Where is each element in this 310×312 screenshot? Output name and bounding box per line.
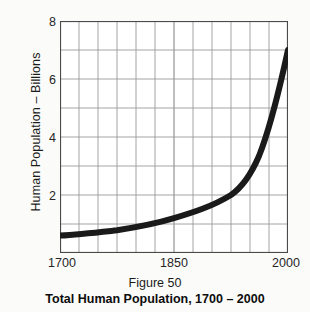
caption-title: Total Human Population, 1700 – 2000 [0, 291, 310, 307]
y-tick-label-8: 8 [34, 16, 56, 29]
x-tick-label-group: 1700 1850 2000 [0, 256, 310, 274]
population-line-chart [60, 21, 288, 253]
caption-figure-number: Figure 50 [0, 276, 310, 291]
figure-caption: Figure 50 Total Human Population, 1700 –… [0, 276, 310, 307]
plot-area [60, 21, 288, 253]
x-tick-label-2000: 2000 [272, 256, 300, 270]
figure-container: Human Population – Billions 8 6 4 2 [0, 0, 310, 312]
y-tick-label-2: 2 [34, 190, 56, 203]
y-tick-label-4: 4 [34, 132, 56, 145]
y-tick-label-group: 8 6 4 2 [30, 21, 56, 253]
y-tick-label-6: 6 [34, 74, 56, 87]
x-tick-label-1700: 1700 [48, 256, 76, 270]
x-tick-label-1850: 1850 [160, 256, 188, 270]
